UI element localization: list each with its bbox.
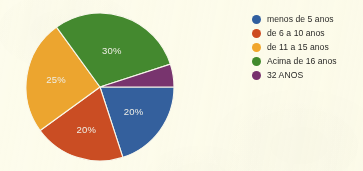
legend-item[interactable]: 32 ANOS [252, 68, 363, 82]
pie-slice-label: 30% [102, 45, 122, 56]
legend-item[interactable]: menos de 5 anos [252, 12, 363, 26]
circle-swatch-icon [252, 71, 261, 80]
pie-slice-label: 25% [46, 74, 66, 85]
legend-item-label: 32 ANOS [267, 68, 303, 82]
legend-item-label: menos de 5 anos [267, 12, 334, 26]
legend-item[interactable]: de 6 a 10 anos [252, 26, 363, 40]
chart-page: 20%20%25%30% menos de 5 anosde 6 a 10 an… [0, 0, 363, 171]
circle-swatch-icon [252, 15, 261, 24]
legend-item[interactable]: de 11 a 15 anos [252, 40, 363, 54]
circle-swatch-icon [252, 57, 261, 66]
pie-slice-label: 20% [124, 106, 144, 117]
legend-item[interactable]: Acima de 16 anos [252, 54, 363, 68]
pie-chart: 20%20%25%30% [22, 9, 178, 165]
circle-swatch-icon [252, 29, 261, 38]
pie-slice-label: 20% [76, 124, 96, 135]
legend-item-label: Acima de 16 anos [267, 54, 337, 68]
circle-swatch-icon [252, 43, 261, 52]
pie-chart-area: 20%20%25%30% [0, 0, 210, 171]
chart-legend: menos de 5 anosde 6 a 10 anosde 11 a 15 … [252, 12, 363, 82]
pie-slices-group [26, 13, 174, 161]
legend-item-label: de 11 a 15 anos [267, 40, 329, 54]
legend-item-label: de 6 a 10 anos [267, 26, 325, 40]
